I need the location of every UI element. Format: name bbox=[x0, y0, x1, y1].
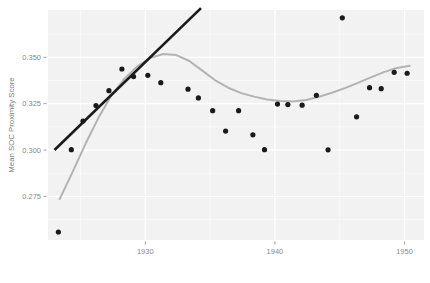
data-point bbox=[185, 87, 190, 92]
data-point bbox=[262, 147, 267, 152]
x-axis-tick-label: 1930 bbox=[137, 247, 154, 256]
y-axis-tick-label: 0.325 bbox=[22, 99, 41, 108]
data-point bbox=[158, 80, 163, 85]
x-axis-tick-label: 1940 bbox=[267, 247, 284, 256]
data-point bbox=[392, 70, 397, 75]
data-point bbox=[196, 95, 201, 100]
data-point bbox=[354, 114, 359, 119]
y-axis-tick-label: 0.350 bbox=[22, 53, 41, 62]
x-axis-tick-label: 1950 bbox=[396, 247, 413, 256]
data-point bbox=[145, 73, 150, 78]
data-point bbox=[236, 108, 241, 113]
data-point bbox=[300, 103, 305, 108]
soc-proximity-scatter-chart: 0.2750.3000.3250.350193019401950Mean SOC… bbox=[0, 0, 430, 283]
data-point bbox=[275, 101, 280, 106]
data-point bbox=[367, 85, 372, 90]
data-point bbox=[340, 15, 345, 20]
data-point bbox=[80, 119, 85, 124]
chart-container: 0.2750.3000.3250.350193019401950Mean SOC… bbox=[0, 0, 430, 283]
data-point bbox=[250, 132, 255, 137]
data-point bbox=[93, 103, 98, 108]
data-point bbox=[314, 93, 319, 98]
data-point bbox=[223, 129, 228, 134]
data-point bbox=[379, 86, 384, 91]
data-point bbox=[131, 74, 136, 79]
data-point bbox=[56, 229, 61, 234]
data-point bbox=[325, 147, 330, 152]
data-point bbox=[106, 88, 111, 93]
y-axis-title: Mean SOC Proximity Score bbox=[7, 77, 16, 172]
data-point bbox=[285, 102, 290, 107]
data-point bbox=[405, 71, 410, 76]
plot-panel-background bbox=[48, 10, 424, 240]
y-axis-tick-label: 0.275 bbox=[22, 192, 41, 201]
y-axis-tick-label: 0.300 bbox=[22, 146, 41, 155]
data-point bbox=[210, 108, 215, 113]
data-point bbox=[69, 147, 74, 152]
data-point bbox=[119, 66, 124, 71]
